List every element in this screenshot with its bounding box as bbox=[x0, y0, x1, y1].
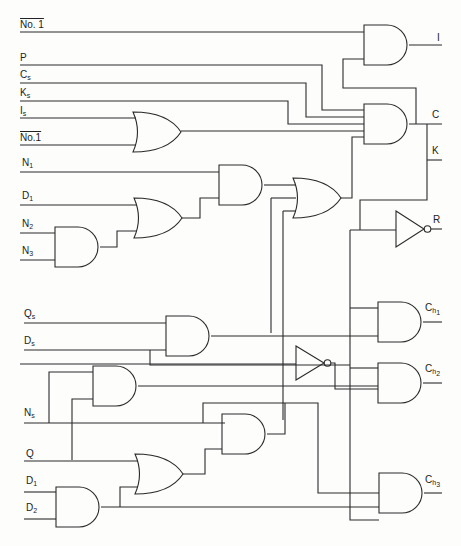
input-label-n1: N1 bbox=[22, 158, 33, 171]
input-wires bbox=[20, 32, 442, 520]
input-label-no1-bottom: No.1 bbox=[20, 133, 41, 143]
or-gate-mid1 bbox=[134, 198, 182, 238]
not-gate-r-bubble bbox=[424, 226, 431, 233]
or-gate-top bbox=[133, 112, 181, 152]
output-label-k: K bbox=[432, 146, 439, 156]
input-label-ns: Ns bbox=[24, 408, 35, 421]
logic-circuit-diagram bbox=[0, 0, 461, 546]
input-label-no1-top: No. 1 bbox=[20, 20, 44, 30]
input-label-ds: Ds bbox=[24, 336, 35, 349]
input-label-qs: Qs bbox=[24, 309, 35, 322]
input-label-d1-bottom: D1 bbox=[26, 476, 37, 489]
input-label-d1-top: D1 bbox=[22, 191, 33, 204]
and-gate-d12 bbox=[56, 487, 99, 527]
input-label-ks: Ks bbox=[20, 88, 30, 101]
or-gate-low bbox=[135, 454, 183, 494]
and-gate-n23 bbox=[55, 227, 98, 267]
input-label-is: Is bbox=[20, 106, 26, 119]
input-label-n3: N3 bbox=[22, 246, 33, 259]
output-label-ch1: Ch1 bbox=[425, 303, 440, 318]
not-gate-r bbox=[396, 211, 424, 247]
and-gate-i bbox=[364, 25, 407, 65]
output-label-ch3: Ch3 bbox=[425, 475, 440, 490]
input-label-p: P bbox=[20, 53, 27, 63]
and-gate-mid bbox=[219, 165, 262, 205]
and-gate-low bbox=[222, 414, 265, 454]
gates bbox=[55, 25, 431, 527]
and-gate-ns bbox=[93, 366, 136, 406]
output-label-i: I bbox=[437, 33, 440, 43]
output-label-r: R bbox=[433, 215, 440, 225]
and-gate-ch1 bbox=[378, 302, 421, 342]
output-label-c: C bbox=[432, 110, 439, 120]
and-gate-c bbox=[364, 104, 407, 144]
and-gate-ch2 bbox=[378, 363, 421, 403]
input-label-n2: N2 bbox=[22, 219, 33, 232]
input-label-cs: Cs bbox=[20, 70, 31, 83]
input-label-q: Q bbox=[26, 449, 34, 459]
and-gate-qd bbox=[166, 316, 209, 356]
output-label-ch2: Ch2 bbox=[425, 364, 440, 379]
or-gate-mid2 bbox=[293, 178, 341, 218]
not-gate-mid bbox=[296, 346, 324, 380]
and-gate-ch3 bbox=[379, 473, 422, 513]
input-label-d2: D2 bbox=[26, 503, 37, 516]
